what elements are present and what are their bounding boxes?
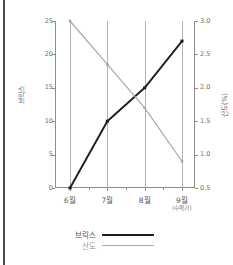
data-point-marker	[143, 107, 146, 110]
right-axis-tick-label: 0.5	[200, 185, 210, 192]
series-line-산도	[70, 21, 182, 161]
right-axis-tick	[195, 54, 198, 55]
right-axis-tick	[195, 88, 198, 89]
left-axis-tick-label: 10	[45, 118, 53, 125]
x-axis-tick-label: 7월	[101, 197, 113, 205]
left-axis-tick-label: 15	[45, 84, 53, 91]
x-axis-tick-label: 9월(수확기)	[172, 197, 192, 212]
right-axis-tick-label: 2.5	[200, 51, 210, 58]
plot-area: 0510152025 0.51.01.52.02.53.0 6월7월8월9월(수…	[55, 21, 195, 188]
legend-item-brix: 브릭스	[52, 229, 162, 240]
line-chart-figure: 0510152025 0.51.01.52.02.53.0 6월7월8월9월(수…	[0, 0, 233, 265]
left-axis-tick-label: 0	[49, 185, 53, 192]
x-axis-minor-tick	[126, 188, 127, 190]
x-axis-tick-label: 8월	[139, 197, 151, 205]
right-axis-tick-label: 1.0	[200, 151, 210, 158]
left-axis-tick-label: 20	[45, 51, 53, 58]
series-plot	[55, 21, 195, 188]
right-axis-tick-label: 1.5	[200, 118, 210, 125]
left-axis-tick-label: 5	[49, 151, 53, 158]
x-axis-minor-tick	[89, 188, 90, 190]
chart-legend: 브릭스 산도	[52, 229, 162, 251]
legend-label-acidity: 산도	[52, 240, 102, 251]
right-axis-tick	[195, 121, 198, 122]
right-axis-tick	[195, 188, 198, 189]
right-axis-tick-label: 3.0	[200, 18, 210, 25]
data-point-marker	[181, 160, 184, 163]
series-line-브릭스	[70, 41, 182, 188]
data-point-marker	[69, 20, 72, 23]
data-point-marker	[143, 86, 146, 89]
figure-page: 0510152025 0.51.01.52.02.53.0 6월7월8월9월(수…	[0, 0, 233, 265]
right-axis-tick-label: 2.0	[200, 84, 210, 91]
data-point-marker	[106, 63, 109, 66]
right-axis-title: 산도(%)	[219, 93, 229, 117]
data-point-marker	[106, 120, 109, 123]
x-axis-tick	[145, 188, 146, 191]
left-axis-tick-label: 25	[45, 18, 53, 25]
legend-label-brix: 브릭스	[52, 229, 102, 240]
x-axis-tick	[182, 188, 183, 191]
right-axis-tick	[195, 21, 198, 22]
x-axis-minor-tick	[163, 188, 164, 190]
data-point-marker	[181, 40, 184, 43]
x-axis-tick-label: 6월	[64, 197, 76, 205]
legend-item-acidity: 산도	[52, 240, 162, 251]
x-axis-tick	[107, 188, 108, 191]
right-axis-tick	[195, 155, 198, 156]
legend-swatch-acidity	[102, 245, 154, 246]
x-axis-tick-sublabel: (수확기)	[172, 205, 192, 211]
legend-swatch-brix	[102, 234, 154, 236]
data-point-marker	[69, 187, 72, 190]
left-axis-title: 브릭스	[16, 86, 26, 104]
